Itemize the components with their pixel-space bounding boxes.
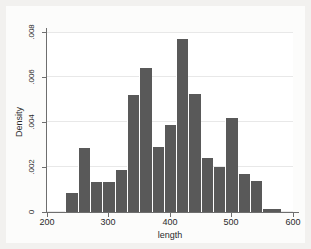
- histogram-bar: [102, 182, 114, 212]
- x-tick-label-200: 200: [39, 218, 54, 227]
- histogram-bar: [139, 68, 151, 212]
- gridline-006: [47, 76, 293, 77]
- histogram-bar: [238, 174, 250, 212]
- histogram-bar: [176, 39, 188, 212]
- histogram-bar: [152, 147, 164, 212]
- histogram-bar: [127, 95, 139, 212]
- x-axis-line: [46, 212, 299, 213]
- y-tick-label-wrap-0: 0: [24, 212, 40, 213]
- x-tick-label-300: 300: [100, 218, 115, 227]
- histogram-bar: [65, 193, 77, 212]
- histogram-bar: [115, 170, 127, 212]
- plot-area: [47, 32, 293, 212]
- gridline-008: [47, 32, 293, 33]
- x-tick-label-600: 600: [285, 218, 300, 227]
- x-tick-label-400: 400: [162, 218, 177, 227]
- histogram-bar: [90, 182, 102, 212]
- y-tick-label-006: .006: [28, 69, 36, 85]
- y-axis-title: Density: [15, 107, 24, 137]
- histogram-bar: [225, 118, 237, 213]
- y-tick-label-wrap-002: .002: [24, 167, 40, 168]
- x-axis-title: length: [158, 231, 183, 240]
- y-axis-line: [46, 28, 47, 213]
- y-tick-mark-002: [42, 167, 47, 168]
- histogram-bar: [78, 148, 90, 212]
- histogram-figure: 0 .002 .004 .006 .008 200 300 400 500 60…: [0, 0, 311, 249]
- histogram-bar: [188, 94, 200, 212]
- y-tick-label-wrap-006: .006: [24, 77, 40, 78]
- gridline-004: [47, 121, 293, 122]
- histogram-bar: [250, 181, 262, 213]
- histogram-bar: [201, 158, 213, 212]
- y-tick-label-008: .008: [28, 24, 36, 40]
- y-tick-label-002: .002: [28, 159, 36, 175]
- y-tick-label-004: .004: [28, 114, 36, 130]
- y-tick-label-wrap-008: .008: [24, 32, 40, 33]
- y-tick-mark-004: [42, 122, 47, 123]
- y-tick-mark-008: [42, 32, 47, 33]
- y-tick-label-0: 0: [28, 210, 36, 214]
- y-tick-mark-006: [42, 77, 47, 78]
- graph-region: 0 .002 .004 .006 .008 200 300 400 500 60…: [6, 6, 305, 243]
- histogram-bar: [164, 125, 176, 212]
- x-tick-label-500: 500: [223, 218, 238, 227]
- y-tick-label-wrap-004: .004: [24, 122, 40, 123]
- histogram-bar: [213, 167, 225, 212]
